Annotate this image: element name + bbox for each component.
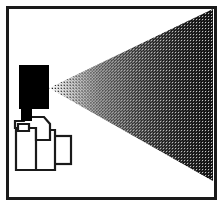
flash-head (19, 65, 49, 109)
camera-rewind-knob (18, 124, 29, 131)
illustration-canvas: Camera with flash unit emitting a light … (0, 0, 223, 206)
flash-illustration (0, 0, 223, 206)
camera-body (16, 127, 36, 170)
